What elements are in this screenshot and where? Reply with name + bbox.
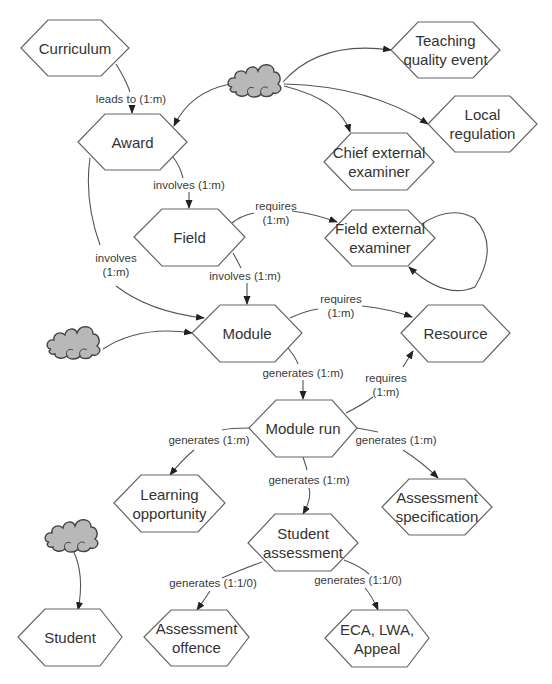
node-teaching-quality-event[interactable] — [391, 22, 500, 78]
edge-label-field-module: involves (1:m) — [209, 269, 281, 283]
edge-label-modulerun-sa: generates (1:m) — [268, 473, 349, 487]
edge-label-modulerun-spec: generates (1:m) — [355, 433, 436, 447]
edge-cloud-student — [73, 550, 81, 610]
edge-cloud-award — [174, 84, 230, 126]
node-chief-external-examiner[interactable] — [324, 133, 434, 190]
node-resource[interactable] — [401, 305, 510, 362]
node-student-assessment[interactable] — [248, 514, 358, 571]
cloud-icon-bottom-left — [45, 520, 98, 552]
node-module[interactable] — [192, 305, 302, 362]
node-field-external-examiner[interactable] — [325, 210, 435, 266]
edge-label-module-resource: requires (1:m) — [320, 292, 362, 320]
edge-label-leads-to: leads to (1:m) — [96, 92, 166, 106]
edge-label-module-modulerun: generates (1:m) — [262, 366, 343, 380]
edge-label-field-fee: requires (1:m) — [255, 199, 297, 227]
node-student[interactable] — [18, 609, 122, 666]
edge-label-award-field: involves (1:m) — [153, 178, 225, 192]
node-module-run[interactable] — [249, 400, 357, 457]
entity-relationship-diagram: Curriculum Teaching quality event Award … — [0, 0, 552, 684]
edge-label-sa-offence: generates (1:1/0) — [169, 576, 257, 590]
node-assessment-offence[interactable] — [144, 610, 249, 666]
cloud-icon-top — [228, 65, 281, 97]
edge-cloud-localreg — [284, 84, 428, 124]
node-field[interactable] — [134, 209, 245, 266]
node-local-regulation[interactable] — [428, 96, 537, 152]
edge-label-modulerun-resource: requires (1:m) — [365, 371, 407, 399]
edge-cloud-teaching — [283, 48, 391, 82]
node-learning-opportunity[interactable] — [114, 475, 225, 532]
node-award[interactable] — [78, 114, 187, 170]
node-curriculum[interactable] — [21, 20, 129, 76]
edge-cloud-module — [103, 331, 192, 349]
edge-label-sa-eca: generates (1:1/0) — [314, 573, 402, 587]
edge-cloud-chief — [284, 86, 350, 132]
edge-label-award-module: involves (1:m) — [95, 251, 137, 279]
diagram-graphics — [0, 0, 552, 684]
node-assessment-specification[interactable] — [382, 479, 492, 535]
cloud-icon-left — [47, 327, 100, 359]
edge-label-modulerun-learning: generates (1:m) — [168, 433, 249, 447]
node-eca-lwa-appeal[interactable] — [325, 610, 429, 667]
